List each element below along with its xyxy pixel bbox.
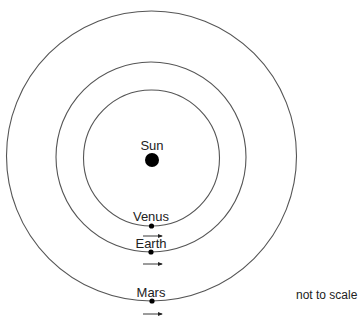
sun-label: Sun	[140, 139, 163, 152]
earth-label: Earth	[135, 237, 166, 250]
sun	[145, 153, 159, 167]
venus-planet	[149, 223, 154, 228]
scale-note: not to scale	[296, 289, 357, 301]
mars-label: Mars	[137, 286, 166, 299]
orbit-diagram	[0, 0, 359, 325]
venus-label: Venus	[133, 210, 169, 223]
